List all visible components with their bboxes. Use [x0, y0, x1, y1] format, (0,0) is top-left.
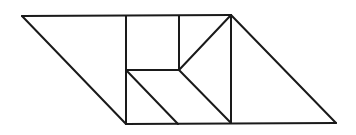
- edge-left-diagonal: [22, 16, 126, 124]
- edge-inner-diagonal-3: [179, 15, 231, 70]
- tangram-diagram: [0, 0, 356, 135]
- edge-right-diagonal: [231, 15, 336, 123]
- edge-inner-diagonal-1: [126, 70, 178, 124]
- edge-inner-diagonal-2: [179, 70, 231, 123]
- diagram-edges: [22, 15, 336, 124]
